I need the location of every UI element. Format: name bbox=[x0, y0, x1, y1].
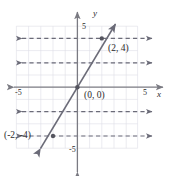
x-axis-tick-label-5: 5 bbox=[143, 89, 147, 97]
y-axis-tick-label-5: 5 bbox=[82, 23, 86, 31]
point-marker-2-4 bbox=[100, 36, 104, 40]
y-axis-tick-label-neg5: -5 bbox=[69, 146, 76, 154]
x-axis-tick-label-neg5: -5 bbox=[15, 89, 22, 97]
point-marker-0-0 bbox=[75, 85, 79, 89]
x-axis-label: x bbox=[157, 90, 161, 99]
point-label-0-0: (0, 0) bbox=[84, 91, 105, 101]
y-axis-label: y bbox=[93, 9, 97, 18]
point-marker-n2-n4 bbox=[51, 134, 55, 138]
point-label-neg2-neg4: (-2, -4) bbox=[4, 131, 31, 141]
point-label-2-4: (2, 4) bbox=[108, 44, 129, 54]
graph-figure: 5 y -5 5 x -5 (2, 4) (0, 0) (-2, -4) bbox=[0, 0, 172, 176]
